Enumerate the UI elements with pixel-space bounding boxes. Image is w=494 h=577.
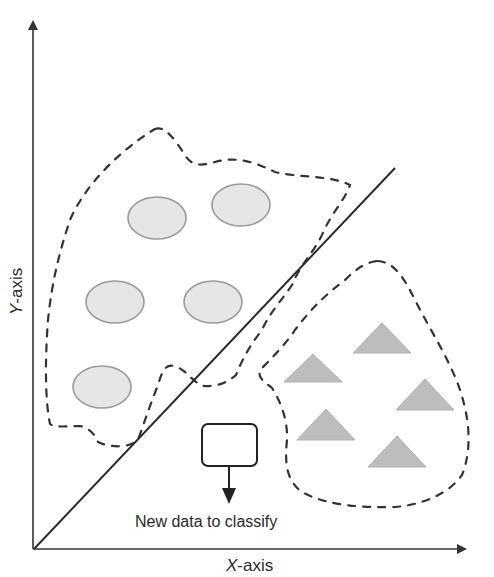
new-data-label-text: New data to classify (135, 513, 277, 530)
class-a-point (184, 281, 242, 323)
class-b-point (297, 409, 355, 440)
class-b-point (368, 436, 426, 467)
class-b-cluster-outline (260, 261, 469, 507)
x-axis-label: X-axis (226, 556, 273, 576)
class-a-circles (73, 184, 270, 408)
y-axis-label-italic: Y (7, 304, 26, 315)
new-data-point-box (202, 424, 257, 466)
new-data-label: New data to classify (135, 513, 277, 531)
class-a-point (212, 184, 270, 226)
new-data-arrow-head (222, 488, 236, 504)
decision-boundary-line (34, 168, 395, 549)
class-b-point (284, 354, 342, 382)
y-axis-label: Y-axis (7, 265, 27, 315)
class-b-point (353, 323, 411, 353)
y-axis-label-rest: -axis (7, 268, 26, 304)
class-a-point (73, 366, 131, 408)
x-axis-label-italic: X (226, 556, 237, 575)
class-b-triangles (284, 323, 454, 467)
classification-diagram (0, 0, 494, 577)
class-a-point (128, 197, 186, 239)
class-a-point (86, 281, 144, 323)
x-axis-label-rest: -axis (237, 556, 273, 575)
class-b-point (396, 379, 454, 410)
